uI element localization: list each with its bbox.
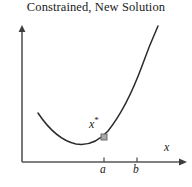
x-axis-arrow-icon <box>179 159 187 166</box>
optimum-label: x* <box>89 115 99 132</box>
y-axis-arrow-icon <box>19 25 26 32</box>
x-axis-label: x <box>164 140 169 155</box>
tick-label-a: a <box>100 163 106 175</box>
plot-canvas <box>0 0 192 187</box>
optimum-label-star: * <box>94 115 99 125</box>
tick-label-b: b <box>133 163 139 175</box>
constrained-optimum-marker <box>101 134 107 140</box>
figure-constrained-new-solution: Constrained, New Solution x a b x* <box>0 0 192 187</box>
